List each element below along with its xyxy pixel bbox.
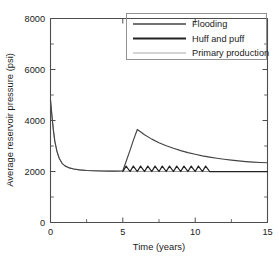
chart-figure: 0 2000 4000 6000 8000 0 5 10 15 <box>0 0 279 268</box>
y-tick-label-8000: 8000 <box>25 14 45 24</box>
reservoir-pressure-line-chart: 0 2000 4000 6000 8000 0 5 10 15 <box>0 0 279 268</box>
legend-label-flooding: Flooding <box>192 19 227 29</box>
y-axis-tick-labels: 0 2000 4000 6000 8000 <box>25 14 45 228</box>
data-series-group <box>51 100 268 171</box>
legend-label-huff-and-puff: Huff and puff <box>192 34 245 44</box>
x-tick-label-15: 15 <box>262 227 272 237</box>
x-axis-title: Time (years) <box>133 241 185 252</box>
series-line-flooding <box>51 100 268 171</box>
legend-label-primary-production: Primary production <box>192 48 269 58</box>
x-tick-label-5: 5 <box>120 227 125 237</box>
y-tick-label-2000: 2000 <box>25 167 45 177</box>
y-tick-label-6000: 6000 <box>25 65 45 75</box>
y-tick-label-4000: 4000 <box>25 116 45 126</box>
x-axis-tick-labels: 0 5 10 15 <box>48 227 273 237</box>
series-line-huff-and-puff <box>123 166 268 171</box>
y-axis-title: Average reservoir pressure (psi) <box>4 53 15 187</box>
x-tick-label-0: 0 <box>48 227 53 237</box>
x-tick-label-10: 10 <box>190 227 200 237</box>
chart-legend: Flooding Huff and puff Primary productio… <box>127 14 270 60</box>
y-tick-label-0: 0 <box>40 218 45 228</box>
